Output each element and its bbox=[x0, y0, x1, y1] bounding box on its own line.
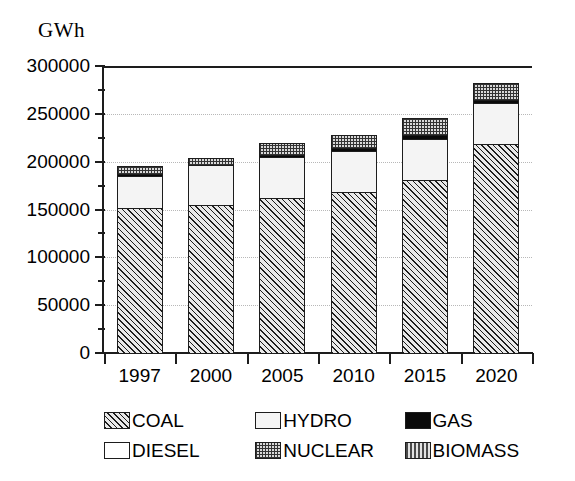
bar-segment-coal bbox=[402, 180, 448, 353]
x-axis: 199720002005201020152020 bbox=[104, 353, 534, 393]
y-axis-tick bbox=[95, 209, 105, 211]
bar-segment-hydro bbox=[259, 157, 305, 198]
bar-2010 bbox=[331, 135, 377, 353]
x-axis-tick bbox=[175, 353, 177, 364]
y-axis-tick bbox=[95, 65, 105, 67]
legend-swatch-coal-icon bbox=[104, 412, 130, 429]
x-axis-tick bbox=[247, 353, 249, 364]
gridline bbox=[104, 257, 532, 259]
y-axis-minor-tick bbox=[98, 280, 105, 282]
y-axis-label: 250000 bbox=[27, 103, 90, 125]
plot-area: 300000250000200000150000100000500000 bbox=[104, 66, 532, 353]
y-axis-label: 100000 bbox=[27, 246, 90, 268]
legend-label: HYDRO bbox=[283, 411, 352, 430]
bar-segment-hydro bbox=[331, 151, 377, 192]
bar-segment-nuclear bbox=[259, 143, 305, 154]
legend-swatch-diesel-icon bbox=[104, 442, 130, 459]
x-axis-tick bbox=[104, 353, 106, 364]
bar-1997 bbox=[117, 166, 163, 353]
y-axis-tick bbox=[95, 304, 105, 306]
y-axis-label: 50000 bbox=[37, 294, 90, 316]
bar-segment-hydro bbox=[473, 103, 519, 144]
bar-segment-coal bbox=[188, 205, 234, 353]
gridline bbox=[104, 210, 532, 212]
bar-segment-gas bbox=[117, 174, 163, 176]
y-axis-label: 300000 bbox=[27, 55, 90, 77]
y-axis-minor-tick bbox=[98, 185, 105, 187]
bar-segment-gas bbox=[259, 155, 305, 157]
y-axis-tick bbox=[95, 256, 105, 258]
x-axis-label-1997: 1997 bbox=[119, 365, 161, 387]
bar-segment-hydro bbox=[402, 139, 448, 180]
bar-segment-gas bbox=[331, 148, 377, 151]
legend-item-gas: GAS bbox=[405, 411, 524, 430]
bar-2005 bbox=[259, 143, 305, 353]
legend-swatch-nuclear-icon bbox=[255, 442, 281, 459]
bar-segment-coal bbox=[473, 144, 519, 353]
legend-label: NUCLEAR bbox=[283, 441, 374, 460]
gridline bbox=[104, 305, 532, 307]
y-axis-tick bbox=[95, 113, 105, 115]
y-axis-minor-tick bbox=[98, 232, 105, 234]
legend-label: COAL bbox=[132, 411, 184, 430]
y-axis-tick bbox=[95, 161, 105, 163]
y-axis-minor-tick bbox=[98, 137, 105, 139]
bar-segment-nuclear bbox=[473, 83, 519, 99]
plot-top-rule bbox=[104, 66, 532, 68]
x-axis-label-2005: 2005 bbox=[261, 365, 303, 387]
bar-2000 bbox=[188, 158, 234, 353]
legend-item-hydro: HYDRO bbox=[255, 411, 404, 430]
bar-2020 bbox=[473, 83, 519, 353]
bar-segment-coal bbox=[259, 198, 305, 353]
y-axis-unit-caption: GWh bbox=[38, 18, 85, 43]
legend-row: COALHYDROGAS bbox=[104, 405, 524, 435]
chart-legend: COALHYDROGASDIESELNUCLEARBIOMASS bbox=[104, 405, 524, 465]
x-axis-label-2000: 2000 bbox=[190, 365, 232, 387]
bar-segment-coal bbox=[117, 208, 163, 353]
x-axis-label-2020: 2020 bbox=[475, 365, 517, 387]
gridline bbox=[104, 162, 532, 164]
legend-label: BIOMASS bbox=[433, 441, 520, 460]
y-axis-label: 200000 bbox=[27, 151, 90, 173]
legend-label: GAS bbox=[433, 411, 473, 430]
bar-segment-coal bbox=[331, 192, 377, 353]
bar-segment-nuclear bbox=[402, 118, 448, 135]
x-axis-label-2015: 2015 bbox=[404, 365, 446, 387]
stacked-bar-chart: GWh 300000250000200000150000100000500000… bbox=[0, 0, 575, 481]
x-axis-tick bbox=[532, 353, 534, 364]
legend-label: DIESEL bbox=[132, 441, 200, 460]
legend-swatch-gas-icon bbox=[405, 412, 431, 429]
bar-segment-hydro bbox=[188, 165, 234, 205]
legend-item-nuclear: NUCLEAR bbox=[255, 441, 404, 460]
legend-item-biomass: BIOMASS bbox=[405, 441, 524, 460]
bar-2015 bbox=[402, 118, 448, 353]
bar-segment-gas bbox=[402, 135, 448, 139]
y-axis-minor-tick bbox=[98, 89, 105, 91]
legend-swatch-biomass-icon bbox=[405, 442, 431, 459]
legend-item-diesel: DIESEL bbox=[104, 441, 255, 460]
bar-segment-gas bbox=[473, 100, 519, 104]
legend-swatch-hydro-icon bbox=[255, 412, 281, 429]
bar-segment-nuclear bbox=[188, 158, 234, 165]
bar-segment-nuclear bbox=[117, 166, 163, 174]
x-axis-tick bbox=[461, 353, 463, 364]
legend-row: DIESELNUCLEARBIOMASS bbox=[104, 435, 524, 465]
x-axis-tick bbox=[389, 353, 391, 364]
y-axis-label: 0 bbox=[79, 342, 90, 364]
y-axis-label: 150000 bbox=[27, 199, 90, 221]
x-axis-tick bbox=[318, 353, 320, 364]
gridline bbox=[104, 114, 532, 116]
bar-segment-hydro bbox=[117, 176, 163, 208]
x-axis-label-2010: 2010 bbox=[333, 365, 375, 387]
y-axis-minor-tick bbox=[98, 328, 105, 330]
bar-segment-nuclear bbox=[331, 135, 377, 148]
legend-item-coal: COAL bbox=[104, 411, 255, 430]
